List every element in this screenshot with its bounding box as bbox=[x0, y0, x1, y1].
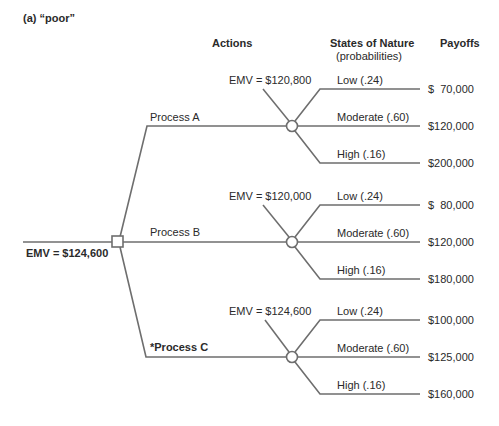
state-b-low: Low (.24) bbox=[337, 190, 383, 203]
action-label-a: Process A bbox=[150, 111, 200, 124]
payoff-a-high: $200,000 bbox=[428, 157, 474, 170]
decision-tree-lines bbox=[0, 0, 499, 426]
action-label-c: *Process C bbox=[150, 341, 208, 354]
chance-node-a bbox=[287, 121, 298, 132]
payoff-c-low: $100,000 bbox=[428, 314, 474, 327]
state-c-high: High (.16) bbox=[337, 379, 385, 392]
payoff-b-low: $ 80,000 bbox=[428, 199, 474, 212]
emv-b: EMV = $120,000 bbox=[229, 190, 311, 203]
state-b-high: High (.16) bbox=[337, 264, 385, 277]
decision-node-square bbox=[112, 236, 123, 247]
state-a-moderate: Moderate (.60) bbox=[337, 111, 409, 124]
header-states-sub: (probabilities) bbox=[336, 50, 402, 63]
state-c-low: Low (.24) bbox=[337, 305, 383, 318]
chance-node-b bbox=[287, 237, 298, 248]
emv-c: EMV = $124,600 bbox=[229, 305, 311, 318]
root-emv: EMV = $124,600 bbox=[26, 247, 108, 260]
state-a-high: High (.16) bbox=[337, 148, 385, 161]
header-actions: Actions bbox=[212, 37, 252, 50]
payoff-a-moderate: $120,000 bbox=[428, 120, 474, 133]
figure-label: (a) “poor” bbox=[23, 12, 75, 25]
header-payoffs: Payoffs bbox=[440, 37, 480, 50]
emv-a: EMV = $120,800 bbox=[229, 74, 311, 87]
payoff-c-moderate: $125,000 bbox=[428, 351, 474, 364]
action-label-b: Process B bbox=[150, 226, 200, 239]
state-c-moderate: Moderate (.60) bbox=[337, 342, 409, 355]
payoff-b-moderate: $120,000 bbox=[428, 236, 474, 249]
payoff-c-high: $160,000 bbox=[428, 388, 474, 401]
payoff-b-high: $180,000 bbox=[428, 273, 474, 286]
state-a-low: Low (.24) bbox=[337, 74, 383, 87]
state-b-moderate: Moderate (.60) bbox=[337, 227, 409, 240]
header-states: States of Nature bbox=[330, 37, 414, 50]
chance-node-c bbox=[287, 352, 298, 363]
payoff-a-low: $ 70,000 bbox=[428, 83, 474, 96]
